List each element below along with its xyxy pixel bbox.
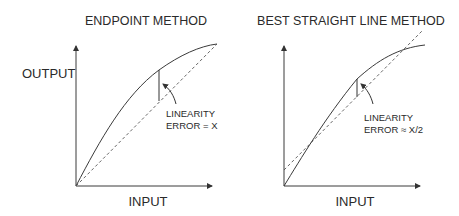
panel-title: ENDPOINT METHOD bbox=[85, 14, 207, 28]
annotation-line-2: ERROR ≈ X/2 bbox=[364, 124, 423, 135]
linearity-diagram: ENDPOINT METHOD OUTPUT INPUT LINEARITY E… bbox=[0, 0, 459, 216]
panel-title: BEST STRAIGHT LINE METHOD bbox=[257, 14, 445, 28]
panel-best-straight-line-method: BEST STRAIGHT LINE METHOD INPUT LINEARIT… bbox=[257, 14, 445, 209]
x-axis-label: INPUT bbox=[129, 194, 168, 209]
panel-endpoint-method: ENDPOINT METHOD OUTPUT INPUT LINEARITY E… bbox=[22, 14, 218, 209]
annotation-line-2: ERROR = X bbox=[166, 120, 218, 131]
y-axis-label: OUTPUT bbox=[22, 66, 76, 81]
annotation-line-1: LINEARITY bbox=[166, 108, 216, 119]
x-axis-label: INPUT bbox=[336, 194, 375, 209]
best-fit-reference-line bbox=[284, 30, 423, 170]
annotation-line-1: LINEARITY bbox=[364, 112, 414, 123]
